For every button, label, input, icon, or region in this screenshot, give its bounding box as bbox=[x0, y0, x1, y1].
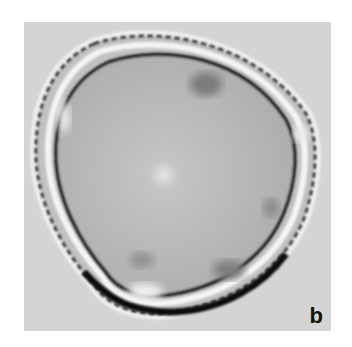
micrograph-panel: b bbox=[24, 22, 331, 331]
pollen-grain-image bbox=[24, 22, 331, 331]
panel-label: b bbox=[310, 305, 323, 327]
